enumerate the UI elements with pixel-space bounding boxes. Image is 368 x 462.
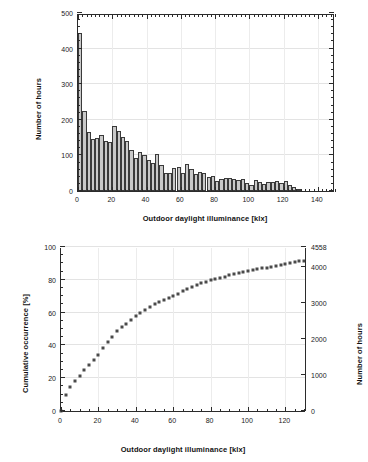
histogram-x-tick (275, 189, 276, 192)
histogram-x-tick (181, 187, 182, 192)
histogram-y-tick (77, 62, 80, 63)
cumulative-x-tick (145, 409, 146, 412)
histogram-x-tick-top (99, 14, 100, 17)
histogram-x-tick-top (284, 14, 285, 19)
list-item (242, 270, 245, 273)
cumulative-x-tick-label: 0 (58, 417, 62, 425)
histogram-x-tick-top (172, 14, 173, 17)
histogram-x-tick-top (262, 14, 263, 17)
histogram-x-tick-top (138, 14, 139, 17)
histogram-x-tick-top (198, 14, 199, 17)
cumulative-y-tick (60, 271, 63, 272)
list-item (209, 279, 212, 282)
histogram-y-tick (77, 97, 80, 98)
histogram-x-tick (296, 189, 297, 192)
list-item (214, 278, 217, 281)
cumulative-y-tick (60, 336, 63, 337)
histogram-gridline-vertical (318, 15, 319, 191)
cumulative-x-tick-label: 100 (241, 417, 253, 425)
list-item (153, 302, 156, 305)
histogram-y-tick-right (331, 40, 334, 41)
histogram-x-tick-top (112, 14, 113, 19)
histogram-y-tick (77, 12, 82, 13)
histogram-x-tick-top (194, 14, 195, 17)
histogram-x-tick-label: 140 (311, 196, 323, 204)
cumulative-x-tick-label: 20 (93, 417, 101, 425)
histogram-x-tick (129, 189, 130, 192)
histogram-x-tick (159, 189, 160, 192)
cumulative-x-tick (267, 409, 268, 412)
histogram-y-tick (77, 169, 80, 170)
list-item (97, 353, 100, 356)
histogram-x-tick (262, 189, 263, 192)
cumulative-y-tick (60, 410, 65, 411)
list-item (204, 280, 207, 283)
histogram-x-tick (279, 189, 280, 192)
histogram-y-tick-label: 500 (49, 10, 73, 18)
list-item (106, 340, 109, 343)
list-item (176, 292, 179, 295)
list-item (111, 335, 114, 338)
cumulative-x-tick (117, 409, 118, 412)
list-item (190, 286, 193, 289)
histogram-y-tick-right (331, 133, 334, 134)
list-item (228, 274, 231, 277)
cumulative-y-tick (60, 312, 65, 313)
histogram-x-tick (151, 189, 152, 192)
cumulative-x-tick (89, 409, 90, 412)
histogram-x-tick (147, 187, 148, 192)
histogram-x-tick-top (104, 14, 105, 17)
histogram-y-tick-right (329, 154, 334, 155)
cumulative-x-tick (220, 409, 221, 412)
cumulative-x-tick (80, 409, 81, 412)
histogram-x-tick-label: 100 (242, 196, 254, 204)
list-item (223, 275, 226, 278)
histogram-x-tick-top (219, 14, 220, 17)
histogram-x-tick (138, 189, 139, 192)
histogram-x-tick-top (335, 14, 336, 17)
histogram-x-tick (219, 189, 220, 192)
histogram-x-tick-top (108, 14, 109, 17)
histogram-y-tick-right (331, 62, 334, 63)
histogram-y-tick (77, 126, 80, 127)
list-item (148, 305, 151, 308)
histogram-y-tick-right (329, 190, 334, 191)
cumulative-x-tick (257, 409, 258, 412)
histogram-x-tick-label: 20 (107, 196, 115, 204)
list-item (172, 294, 175, 297)
histogram-y-tick-right (331, 147, 334, 148)
histogram-gridline-vertical (181, 15, 182, 191)
histogram-x-tick-top (211, 14, 212, 17)
list-item (64, 393, 67, 396)
histogram-x-tick-top (164, 14, 165, 17)
histogram-x-tick (318, 187, 319, 192)
list-item (261, 267, 264, 270)
histogram-x-tick (228, 189, 229, 192)
histogram-y-tick (77, 69, 80, 70)
histogram-x-tick-top (147, 14, 148, 19)
histogram-y-tick (77, 112, 80, 113)
histogram-x-tick (309, 189, 310, 192)
histogram-x-tick-top (125, 14, 126, 17)
histogram-x-tick-top (181, 14, 182, 19)
histogram-y-tick (77, 183, 80, 184)
cumulative-y-tick (60, 328, 63, 329)
histogram-y-tick (77, 90, 80, 91)
list-item (284, 262, 287, 265)
histogram-x-tick (224, 189, 225, 192)
histogram-y-tick (77, 26, 80, 27)
list-item (130, 318, 133, 321)
histogram-x-tick (91, 189, 92, 192)
cumulative-x-tick (136, 407, 137, 412)
histogram-x-tick-top (279, 14, 280, 17)
histogram-x-tick (198, 189, 199, 192)
histogram-x-tick-top (292, 14, 293, 17)
histogram-gridline-vertical (215, 15, 216, 191)
list-item (289, 261, 292, 264)
cumulative-y-tick (60, 353, 63, 354)
cumulative-x-tick (98, 407, 99, 412)
histogram-x-tick-top (155, 14, 156, 17)
histogram-y-tick-right (331, 169, 334, 170)
histogram-y-tick-label: 300 (49, 81, 73, 89)
histogram-x-tick (168, 189, 169, 192)
